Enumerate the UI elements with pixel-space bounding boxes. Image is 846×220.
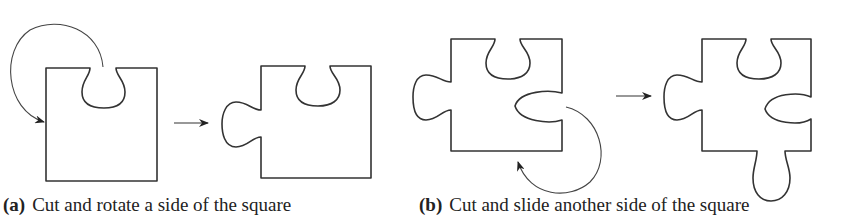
panel-a-square-with-notch: [46, 68, 157, 181]
caption-b-label: (b): [419, 194, 442, 215]
caption-a-label: (a): [3, 194, 25, 215]
panel-b-piece-with-right-notch: [413, 39, 562, 151]
caption-b-text: Cut and slide another side of the square: [449, 194, 749, 215]
caption-a-text: Cut and rotate a side of the square: [32, 194, 291, 215]
caption-b: (b)Cut and slide another side of the squ…: [419, 194, 749, 216]
panel-a-result-piece: [222, 66, 371, 178]
puzzle-diagram: [0, 0, 846, 220]
caption-a: (a)Cut and rotate a side of the square: [3, 194, 291, 216]
panel-b-result-piece: [664, 39, 811, 201]
